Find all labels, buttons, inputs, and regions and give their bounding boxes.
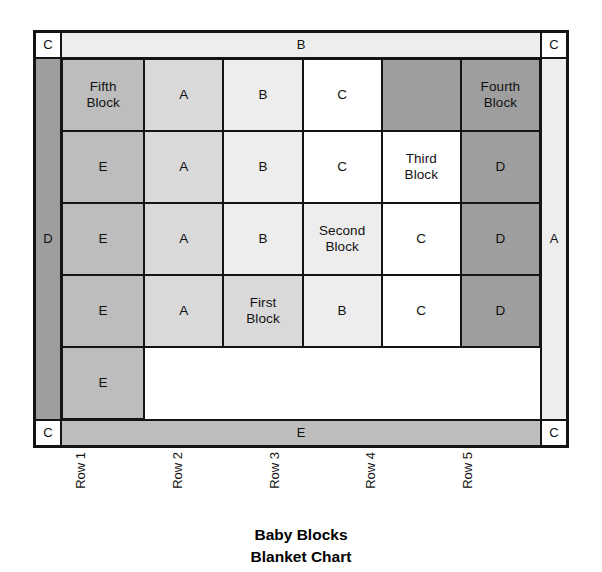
column-label: Row 3 xyxy=(253,452,350,514)
column-label: Row 2 xyxy=(156,452,253,514)
matrix-cell: E xyxy=(61,346,145,420)
matrix-cell: A xyxy=(143,130,224,204)
column-axis-labels: Row 1 Row 2 Row 3 Row 4 Row 5 xyxy=(59,452,543,514)
matrix-cell: D xyxy=(460,202,541,276)
column-label: Row 4 xyxy=(349,452,446,514)
matrix-cell: A xyxy=(143,202,224,276)
column-label: Row 5 xyxy=(446,452,543,514)
matrix-cell: C xyxy=(381,202,462,276)
column-label: Row 1 xyxy=(59,452,156,514)
matrix-cell: B xyxy=(222,58,303,132)
matrix-cell: B xyxy=(222,130,303,204)
matrix-cell: C xyxy=(302,58,383,132)
block-row-label: Third Block xyxy=(381,130,462,204)
matrix-cell: B xyxy=(222,202,303,276)
block-row-label: Fourth Block xyxy=(460,58,541,132)
chart-title: Baby Blocks Blanket Chart xyxy=(0,524,602,568)
chart-title-line1: Baby Blocks xyxy=(0,524,602,546)
corner-top-right: C xyxy=(540,31,568,59)
block-row-label: Second Block xyxy=(302,202,383,276)
blanket-chart-frame: C B C D Fifth Block A B C Fourth Block E… xyxy=(33,30,569,448)
column-label-text: Row 4 xyxy=(363,452,378,489)
band-top: B xyxy=(60,31,542,59)
block-row-label: First Block xyxy=(222,274,303,348)
column-label-text: Row 3 xyxy=(267,452,282,489)
matrix-cell: A xyxy=(143,58,224,132)
matrix-cell: E xyxy=(61,130,145,204)
corner-bottom-right: C xyxy=(540,419,568,447)
matrix-cell: E xyxy=(61,274,145,348)
matrix-cell: D xyxy=(460,274,541,348)
band-bottom: E xyxy=(60,419,542,447)
matrix-cell: E xyxy=(61,202,145,276)
matrix-cell: C xyxy=(302,130,383,204)
block-row-label: Fifth Block xyxy=(61,58,145,132)
matrix-cell: B xyxy=(302,274,383,348)
matrix-cell: A xyxy=(143,274,224,348)
corner-top-left: C xyxy=(34,31,62,59)
band-left: D xyxy=(34,57,62,421)
column-label-text: Row 5 xyxy=(460,452,475,489)
column-label-text: Row 1 xyxy=(73,452,88,489)
matrix-cell: C xyxy=(381,274,462,348)
chart-grid: C B C D Fifth Block A B C Fourth Block E… xyxy=(35,32,567,446)
chart-title-line2: Blanket Chart xyxy=(0,546,602,568)
matrix-cell xyxy=(381,58,462,132)
blocks-matrix: Fifth Block A B C Fourth Block E A B C T… xyxy=(60,57,542,421)
column-label-text: Row 2 xyxy=(170,452,185,489)
band-right: A xyxy=(540,57,568,421)
chart-canvas: C B C D Fifth Block A B C Fourth Block E… xyxy=(0,0,602,572)
matrix-cell: D xyxy=(460,130,541,204)
corner-bottom-left: C xyxy=(34,419,62,447)
